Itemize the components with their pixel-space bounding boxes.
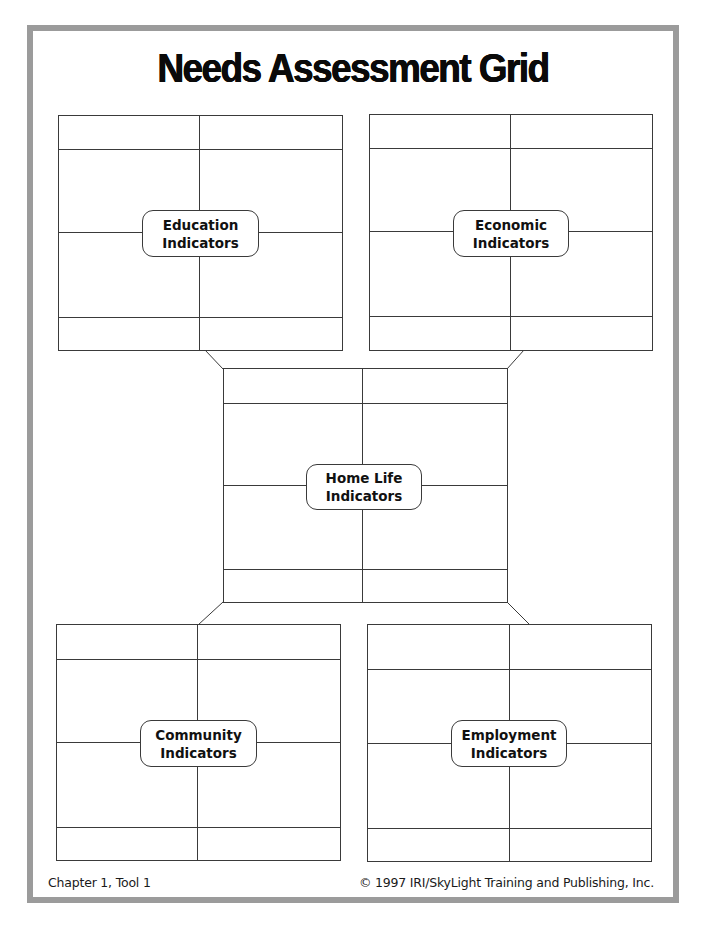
grid-cell-header-left[interactable] — [370, 115, 510, 148]
grid-cell-footer-right[interactable] — [198, 828, 340, 860]
grid-cell-header-left[interactable] — [59, 116, 199, 149]
grid-cell-footer-left[interactable] — [368, 829, 509, 861]
grid-cell-footer-left[interactable] — [370, 317, 510, 350]
home-life-indicators-label: Home Life Indicators — [306, 464, 422, 510]
grid-cell-footer-left[interactable] — [59, 318, 199, 350]
grid-cell-footer-left[interactable] — [57, 828, 197, 860]
grid-cell-header-right[interactable] — [363, 369, 507, 403]
copyright-notice: © 1997 IRI/SkyLight Training and Publish… — [359, 874, 654, 892]
label-line-2: Indicators — [326, 487, 402, 505]
community-grid: Community Indicators — [56, 624, 341, 861]
label-line-1: Economic — [475, 216, 547, 234]
label-line-1: Employment — [462, 726, 557, 744]
label-line-2: Indicators — [473, 234, 549, 252]
grid-cell-header-right[interactable] — [198, 625, 340, 659]
grid-cell-footer-right[interactable] — [363, 570, 507, 602]
grid-cell-footer-right[interactable] — [511, 317, 652, 350]
grid-cell-header-right[interactable] — [200, 116, 342, 149]
grid-cell-header-left[interactable] — [224, 369, 362, 403]
grid-cell-footer-right[interactable] — [200, 318, 342, 350]
community-indicators-label: Community Indicators — [140, 720, 257, 767]
label-line-2: Indicators — [160, 744, 236, 762]
economic-grid: Economic Indicators — [369, 114, 653, 351]
employment-indicators-label: Employment Indicators — [451, 720, 567, 767]
education-indicators-label: Education Indicators — [142, 210, 259, 257]
employment-grid: Employment Indicators — [367, 624, 652, 862]
label-line-1: Home Life — [326, 469, 403, 487]
page-title: Needs Assessment Grid — [28, 44, 678, 92]
label-line-2: Indicators — [162, 234, 238, 252]
grid-cell-footer-left[interactable] — [224, 570, 362, 602]
grid-cell-header-left[interactable] — [57, 625, 197, 659]
grid-cell-header-left[interactable] — [368, 625, 509, 669]
education-grid: Education Indicators — [58, 115, 343, 351]
grid-cell-header-right[interactable] — [511, 115, 652, 148]
grid-cell-header-right[interactable] — [510, 625, 651, 669]
grid-cell-footer-right[interactable] — [510, 829, 651, 861]
label-line-1: Education — [163, 216, 239, 234]
chapter-reference: Chapter 1, Tool 1 — [48, 874, 151, 892]
economic-indicators-label: Economic Indicators — [453, 210, 569, 257]
label-line-2: Indicators — [471, 744, 547, 762]
label-line-1: Community — [155, 726, 241, 744]
home-life-grid: Home Life Indicators — [223, 368, 508, 603]
